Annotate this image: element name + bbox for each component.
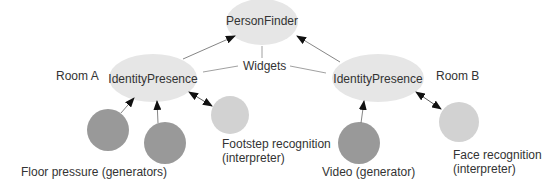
edge-face-ipb (416, 92, 441, 109)
diagram-canvas: PersonFinder IdentityPresence IdentityPr… (0, 0, 547, 188)
face-label-line1: Face recognition (453, 149, 542, 162)
video-generator (338, 122, 380, 164)
edge-floor2-to-ipa (157, 101, 158, 123)
edge-footstep-ipa (189, 92, 212, 106)
person-finder-label: PersonFinder (226, 14, 298, 28)
room-b-label: Room B (436, 70, 479, 83)
floor-pressure-generator-1 (87, 109, 129, 151)
identity-presence-b-label: IdentityPresence (333, 72, 422, 86)
edge-floor1-to-ipa (121, 98, 134, 113)
footstep-label-line1: Footstep recognition (222, 138, 331, 151)
face-label-line2: (interpreter) (453, 163, 516, 176)
footstep-interpreter (211, 96, 249, 134)
widgets-label: Widgets (243, 60, 286, 73)
edge-widgets-left (203, 66, 238, 72)
floor-pressure-label: Floor pressure (generators) (21, 166, 167, 179)
edge-ipb-to-personfinder (297, 36, 340, 62)
identity-presence-a-label: IdentityPresence (108, 72, 197, 86)
footstep-label-line2: (interpreter) (222, 152, 285, 165)
floor-pressure-generator-2 (144, 122, 186, 164)
video-label: Video (generator) (322, 166, 415, 179)
edge-ipa-to-personfinder (183, 36, 235, 59)
edge-video-to-ipb (361, 101, 364, 123)
face-interpreter (439, 102, 479, 142)
room-a-label: Room A (56, 70, 99, 83)
edge-widgets-right (290, 66, 326, 73)
